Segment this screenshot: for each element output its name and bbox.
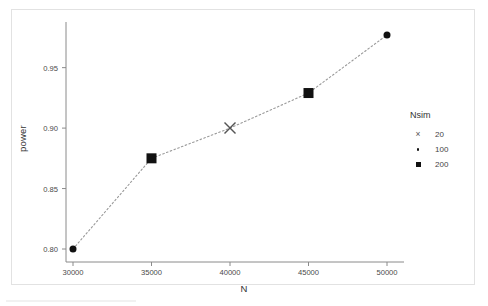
legend-entry[interactable]: ×20 [408, 127, 478, 142]
legend-entry[interactable]: 200 [408, 157, 478, 172]
data-point-circle [70, 246, 77, 253]
legend-entry[interactable]: 100 [408, 142, 478, 157]
connector-line [73, 35, 387, 249]
y-tick-label: 0.85 [34, 184, 58, 193]
series-data-points [70, 32, 391, 253]
legend-entry-label: 100 [435, 145, 448, 154]
data-point-square [304, 88, 314, 98]
data-point-cross [225, 123, 236, 134]
dot-glyph [417, 148, 420, 151]
y-axis-title: power [17, 99, 28, 179]
square-glyph [416, 162, 421, 167]
y-tick-label: 0.95 [34, 63, 58, 72]
x-tick-label: 40000 [219, 268, 240, 277]
legend: Nsim ×20100200 [408, 110, 478, 172]
y-tick-label: 0.80 [34, 245, 58, 254]
data-point-circle [384, 32, 391, 39]
x-tick-label: 50000 [376, 268, 397, 277]
x-tick-label: 35000 [141, 268, 162, 277]
axis-lines [66, 22, 404, 262]
square-marker-icon [408, 162, 428, 167]
data-point-square [147, 153, 157, 163]
x-tick-label: 30000 [62, 268, 83, 277]
y-tick-label: 0.90 [34, 124, 58, 133]
scan-artifact [6, 300, 136, 302]
x-tick-label: 45000 [298, 268, 319, 277]
legend-entries: ×20100200 [408, 127, 478, 172]
x-axis-title: N [0, 283, 488, 294]
cross-marker-icon: × [408, 130, 428, 139]
legend-title: Nsim [408, 110, 478, 120]
cross-glyph: × [416, 130, 421, 139]
tick-marks [62, 68, 387, 266]
series-connector-line [73, 35, 387, 249]
legend-entry-label: 20 [435, 130, 444, 139]
dot-marker-icon [408, 148, 428, 151]
legend-entry-label: 200 [435, 160, 448, 169]
